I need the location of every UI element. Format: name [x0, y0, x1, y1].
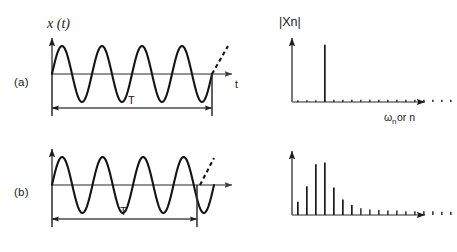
waveform-continuation-a	[212, 46, 228, 74]
omega-symbol-a: ω	[384, 111, 392, 123]
panel-b-time-domain: (b) T	[14, 149, 232, 227]
spectrum-bars-b	[298, 163, 451, 215]
panel-b-label: (b)	[14, 186, 29, 198]
signal-axis-label-a: x (t)	[46, 16, 70, 32]
period-dimension-a: T	[52, 74, 212, 116]
figure-canvas: (a) x (t) t T |Xn| ω n or	[0, 0, 457, 252]
magnitude-axis-label-a: |Xn|	[279, 15, 301, 29]
panel-a-time-domain: (a) x (t) t T	[14, 16, 238, 116]
time-axis-label-a: t	[235, 78, 238, 90]
period-label-a: T	[128, 94, 135, 106]
freq-axis-label-a: ω n or n	[384, 111, 415, 126]
spectrum-bars-a	[298, 45, 451, 102]
freq-or-n-a: or n	[397, 111, 415, 123]
panel-a-spectrum: |Xn| ω n or n	[279, 15, 451, 126]
waveform-continuation-b	[200, 158, 214, 185]
omega-subscript-a: n	[392, 117, 396, 126]
figure-root: (a) x (t) t T |Xn| ω n or	[0, 0, 457, 252]
panel-b-spectrum	[292, 151, 451, 215]
panel-a-label: (a)	[14, 76, 29, 88]
period-label-b: T	[120, 205, 127, 217]
